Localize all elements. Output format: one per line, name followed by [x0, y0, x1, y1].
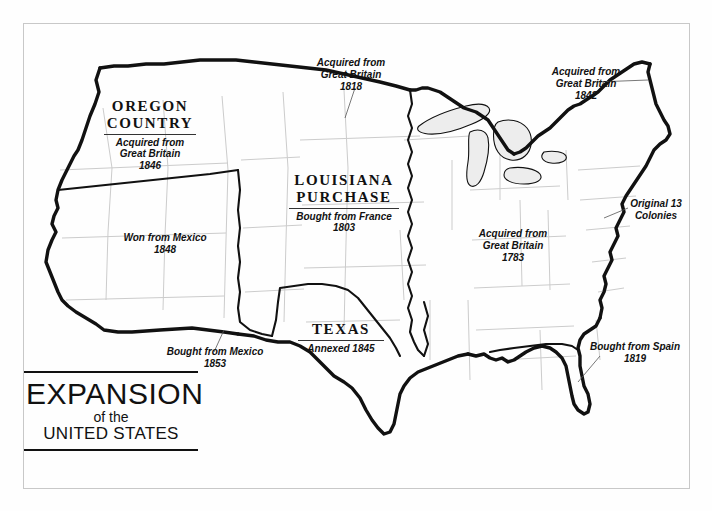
- region-label-louisiana-purchase: LOUISIANA PURCHASE Bought from France 18…: [283, 172, 405, 234]
- annotation-1783-line1: Acquired from: [458, 228, 568, 240]
- annotation-1819-line1: Bought from Spain: [577, 341, 693, 353]
- oregon-country-title-line2: COUNTRY: [98, 115, 202, 132]
- lower-mississippi: [424, 302, 428, 356]
- annotation-1818-line3: 1818: [296, 81, 406, 93]
- texas-sub: Annexed 1845: [296, 343, 386, 355]
- annotation-webster-ashburton-1842: Acquired from Great Britain 1842: [531, 66, 641, 101]
- title-line-expansion: EXPANSION: [24, 379, 198, 409]
- oregon-country-rule: [104, 134, 196, 135]
- oregon-country-sub-line2: Great Britain: [98, 148, 202, 160]
- annotation-colonies-line1: Original 13: [616, 198, 696, 210]
- annotation-original-thirteen-colonies: Original 13 Colonies: [616, 198, 696, 222]
- lake-erie: [504, 167, 541, 184]
- oregon-country-sub-line1: Acquired from: [98, 137, 202, 149]
- annotation-1842-line3: 1842: [531, 90, 641, 102]
- annotation-gadsden-purchase-1853: Bought from Mexico 1853: [155, 346, 275, 370]
- annotation-red-river-cession-1818: Acquired from Great Britain 1818: [296, 57, 406, 92]
- louisiana-purchase-sub-line1: Bought from France: [283, 211, 405, 223]
- oregon-country-year: 1846: [98, 160, 202, 172]
- leader-1818: [345, 88, 355, 118]
- region-label-oregon-country: OREGON COUNTRY Acquired from Great Brita…: [98, 98, 202, 172]
- title-block: EXPANSION of the UNITED STATES: [24, 371, 198, 451]
- annotation-colonies-line2: Colonies: [616, 210, 696, 222]
- oregon-country-title-line1: OREGON: [98, 98, 202, 115]
- lake-ontario: [542, 151, 567, 163]
- cession-east-border: [238, 170, 272, 336]
- region-label-texas: TEXAS Annexed 1845: [296, 321, 386, 355]
- annotation-1848-line2: 1848: [110, 244, 220, 256]
- title-line-united-states: UNITED STATES: [24, 425, 198, 444]
- louisiana-purchase-rule: [289, 208, 399, 209]
- title-rule-bottom: [24, 449, 198, 451]
- title-line-of-the: of the: [24, 410, 198, 425]
- annotation-1853-line2: 1853: [155, 358, 275, 370]
- annotation-1842-line2: Great Britain: [531, 78, 641, 90]
- annotation-treaty-of-paris-1783: Acquired from Great Britain 1783: [458, 228, 568, 263]
- louisiana-purchase-title-line1: LOUISIANA: [283, 172, 405, 189]
- lake-michigan: [467, 130, 489, 186]
- annotation-1818-line2: Great Britain: [296, 69, 406, 81]
- annotation-florida-purchase-1819: Bought from Spain 1819: [577, 341, 693, 365]
- annotation-1848-line1: Won from Mexico: [110, 232, 220, 244]
- annotation-1818-line1: Acquired from: [296, 57, 406, 69]
- oregon-south-border: [58, 170, 238, 190]
- louisiana-purchase-year: 1803: [283, 222, 405, 234]
- annotation-mexican-cession-1848: Won from Mexico 1848: [110, 232, 220, 256]
- texas-title: TEXAS: [296, 321, 386, 338]
- map-page: OREGON COUNTRY Acquired from Great Brita…: [0, 0, 712, 511]
- louisiana-purchase-title-line2: PURCHASE: [283, 189, 405, 206]
- great-lakes: [418, 104, 567, 186]
- annotation-1853-line1: Bought from Mexico: [155, 346, 275, 358]
- annotation-1783-line2: Great Britain: [458, 240, 568, 252]
- texas-rule: [298, 340, 384, 341]
- annotation-1819-line2: 1819: [577, 353, 693, 365]
- annotation-1783-line3: 1783: [458, 252, 568, 264]
- annotation-1842-line1: Acquired from: [531, 66, 641, 78]
- title-rule-top: [24, 371, 198, 373]
